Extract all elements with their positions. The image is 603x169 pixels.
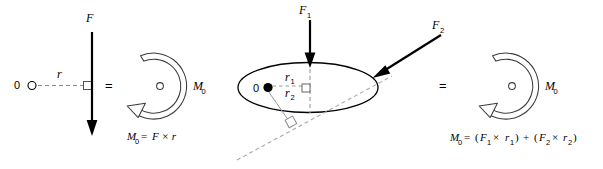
right-panel: = M 0 M 0 = ( F 1 × r 1: [439, 53, 577, 146]
right-formula-term1-times: ×: [493, 131, 499, 143]
right-formula-term1-force-subscript: 1: [487, 138, 491, 147]
middle-r2-subscript: 2: [291, 93, 295, 102]
middle-r2-label: r: [285, 86, 290, 100]
right-formula-plus: +: [523, 131, 529, 143]
middle-r1-label: r: [285, 70, 290, 84]
left-formula-rhs: F × r: [151, 130, 177, 142]
right-formula-term2-close-paren: ): [573, 131, 577, 144]
middle-force2-label: F: [431, 18, 440, 32]
right-moment-subscript: 0: [554, 87, 558, 96]
left-moment-arrow: [127, 53, 186, 119]
middle-perpendicular-marker-1: [302, 84, 310, 92]
right-moment-arrow: [479, 53, 538, 119]
middle-force1-label-group: F 1: [298, 3, 311, 20]
left-origin-label: 0: [14, 79, 20, 91]
right-formula-equals: =: [464, 131, 470, 143]
left-formula: M 0 = F × r: [126, 130, 177, 146]
left-force-label: F: [85, 11, 94, 25]
left-perpendicular-marker: [84, 82, 92, 90]
middle-force2-arrow: [373, 35, 442, 78]
right-formula-term1-close-paren: ): [515, 131, 519, 144]
right-formula-term2-force: F: [538, 131, 546, 143]
middle-force1-label: F: [298, 3, 307, 17]
left-origin-marker-circle: [28, 82, 36, 90]
left-distance-label: r: [57, 67, 62, 81]
right-formula-term2-radius-subscript: 2: [568, 138, 572, 147]
right-formula-term2-open-paren: (: [534, 131, 538, 144]
left-formula-lhs-subscript: 0: [135, 137, 139, 146]
middle-origin-marker-dot: [263, 83, 272, 92]
middle-force2-label-group: F 2: [431, 18, 444, 35]
middle-force2-subscript: 2: [440, 26, 444, 35]
left-moment-label-group: M 0: [192, 79, 206, 96]
middle-force1-arrow: [305, 20, 316, 68]
right-formula: M 0 = ( F 1 × r 1 ) + ( F 2 × r 2 ): [449, 131, 577, 147]
left-moment-subscript: 0: [202, 87, 206, 96]
middle-r1-subscript: 1: [291, 77, 295, 86]
middle-force1-subscript: 1: [307, 11, 311, 20]
right-equals-sign: =: [439, 78, 447, 93]
left-panel: 0 r F =: [14, 11, 206, 146]
moment-diagram-figure: 0 r F =: [0, 0, 603, 169]
right-formula-term2-force-subscript: 2: [546, 138, 550, 147]
left-formula-equals: =: [141, 130, 147, 142]
right-formula-term2-times: ×: [552, 131, 558, 143]
right-formula-term1-force: F: [479, 131, 487, 143]
left-equals-sign: =: [105, 78, 113, 93]
right-formula-lhs-subscript: 0: [458, 138, 462, 147]
right-formula-term1-radius-subscript: 1: [510, 138, 514, 147]
right-moment-label-group: M 0: [544, 79, 558, 96]
middle-origin-label: 0: [253, 82, 259, 94]
middle-panel: 0 r 1 r 2 F: [237, 3, 444, 160]
right-formula-term1-open-paren: (: [475, 131, 479, 144]
